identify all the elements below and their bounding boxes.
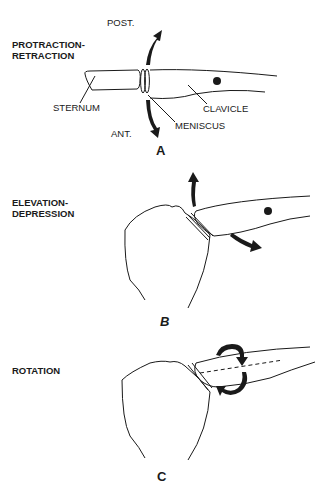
clavicle-c-upper <box>196 347 310 363</box>
panel-b-title-line1: ELEVATION- <box>12 197 68 208</box>
panel-a-title-line2: RETRACTION <box>12 50 74 61</box>
panel-c-title: ROTATION <box>12 365 60 376</box>
label-post: POST. <box>107 17 134 28</box>
depression-arrow <box>230 233 262 252</box>
panel-letter-c: C <box>157 469 166 484</box>
protraction-arrow <box>146 30 162 138</box>
meniscus-b-1 <box>188 215 210 238</box>
label-ant: ANT. <box>111 128 132 139</box>
meniscus-b-2 <box>191 213 213 236</box>
label-sternum: STERNUM <box>53 102 100 113</box>
clavicle-leader <box>188 85 207 104</box>
meniscus-c-2 <box>192 363 212 388</box>
meniscus-c-1 <box>188 365 208 390</box>
label-clavicle: CLAVICLE <box>203 103 248 114</box>
panel-letter-a: A <box>156 143 165 158</box>
elevation-arrow <box>188 172 199 207</box>
clavicle-c-end <box>195 363 218 387</box>
panel-letter-b: B <box>160 314 169 329</box>
panel-b-drawing <box>125 196 310 308</box>
clavicle-upper-edge <box>150 70 277 76</box>
panel-b-title-line2: DEPRESSION <box>12 208 74 219</box>
panel-a-title-line1: PROTRACTION- <box>12 39 85 50</box>
scapula-outline-b <box>125 205 210 308</box>
panel-a-drawing <box>80 69 277 122</box>
clavicle-dot-a <box>213 77 221 85</box>
diagram-canvas <box>0 0 322 488</box>
panel-c-drawing <box>122 347 315 460</box>
clavicle-b-lower <box>214 216 310 236</box>
clavicle-b-upper <box>196 196 310 211</box>
clavicle-dot-b <box>264 207 272 215</box>
label-meniscus: MENISCUS <box>175 120 225 131</box>
clavicle-lower-edge <box>150 90 265 98</box>
rotation-arrow-bottom <box>216 372 247 396</box>
clavicle-c-lower <box>218 362 315 387</box>
